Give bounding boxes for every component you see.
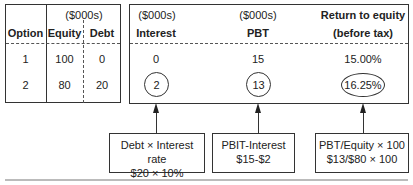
header-return-to-equity: Return to equity <box>318 9 408 21</box>
header-pbt: PBT <box>233 27 283 39</box>
pbt-unit-label: ($000s) <box>233 9 283 21</box>
note-interest-calc: Debt × Interest rate $20 × 10% <box>109 133 205 173</box>
results-header-divider <box>130 43 408 44</box>
header-interest: Interest <box>131 27 181 39</box>
interest-row2-circled: 2 <box>144 72 169 97</box>
header-before-tax: (before tax) <box>318 27 408 39</box>
arrowhead-return-icon <box>360 103 366 113</box>
note-pbt-calc: PBIT-Interest $15-$2 <box>212 133 295 173</box>
arrowhead-interest-icon <box>153 103 159 113</box>
note-interest-values: $20 × 10% <box>110 166 204 180</box>
note-pbt-values: $15-$2 <box>213 152 294 166</box>
return-row2: 16.25% <box>344 79 381 91</box>
bottom-rule <box>5 179 408 181</box>
row2-debt: 20 <box>83 79 121 91</box>
note-return-values: $13/$80 × 100 <box>316 152 408 166</box>
row2-option: 2 <box>5 79 46 91</box>
options-header-divider <box>6 43 120 44</box>
header-debt: Debt <box>83 27 121 39</box>
pbt-row2-circled: 13 <box>246 72 271 97</box>
note-return-formula: PBT/Equity × 100 <box>316 138 408 152</box>
return-row2-circled: 16.25% <box>341 73 385 97</box>
pbt-row2: 13 <box>252 79 264 91</box>
row2-equity: 80 <box>46 79 83 91</box>
return-row1: 15.00% <box>318 53 408 65</box>
note-return-calc: PBT/Equity × 100 $13/$80 × 100 <box>315 133 409 173</box>
note-interest-formula: Debt × Interest rate <box>110 138 204 166</box>
options-unit-label: ($000s) <box>47 9 121 21</box>
interest-row1: 0 <box>131 53 181 65</box>
row1-option: 1 <box>5 53 46 65</box>
interest-row2: 2 <box>153 79 159 91</box>
interest-unit-label: ($000s) <box>132 9 182 21</box>
header-equity: Equity <box>46 27 83 39</box>
pbt-row1: 15 <box>233 53 283 65</box>
arrowhead-pbt-icon <box>255 103 261 113</box>
row1-debt: 0 <box>83 53 121 65</box>
header-option: Option <box>5 27 46 39</box>
note-pbt-formula: PBIT-Interest <box>213 138 294 152</box>
row1-equity: 100 <box>46 53 83 65</box>
